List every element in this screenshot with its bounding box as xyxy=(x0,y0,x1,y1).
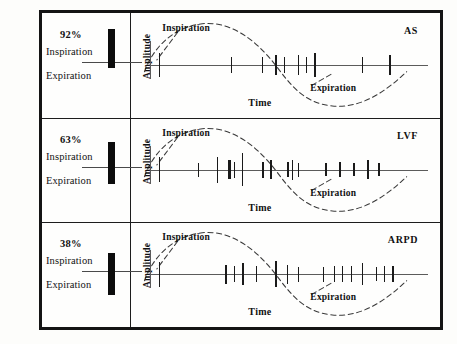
spike-mark xyxy=(298,267,299,283)
inspiration-annotation: Inspiration xyxy=(162,23,210,33)
percent-value: 38% xyxy=(60,238,82,249)
proportion-indicator: 92% Inspiration Expiration xyxy=(42,13,130,118)
spike-mark xyxy=(159,53,160,78)
spike-mark xyxy=(339,162,341,178)
panel-arpd: 38% Inspiration Expiration Amplitude Tim… xyxy=(42,222,440,327)
figure-canvas: 92% Inspiration Expiration Amplitude Tim… xyxy=(0,0,457,344)
spike-mark xyxy=(389,55,390,76)
proportion-bar xyxy=(108,29,115,68)
figure-frame: 92% Inspiration Expiration Amplitude Tim… xyxy=(39,10,443,330)
x-axis-label: Time xyxy=(248,306,271,317)
spike-mark xyxy=(228,160,231,180)
proportion-bar xyxy=(108,142,115,184)
spike-mark xyxy=(298,55,299,75)
y-axis-line xyxy=(150,146,151,184)
spike-raster-plot: Amplitude Time Inspiration Expiration AR… xyxy=(130,222,440,327)
panel-label: ARPD xyxy=(388,234,418,245)
spike-mark xyxy=(362,57,363,73)
panel-as: 92% Inspiration Expiration Amplitude Tim… xyxy=(42,13,440,118)
spike-mark xyxy=(284,57,285,73)
spike-mark xyxy=(384,266,385,282)
spike-mark xyxy=(292,160,293,180)
percent-value: 63% xyxy=(60,134,82,145)
y-axis-line xyxy=(150,41,151,79)
y-axis-line xyxy=(150,250,151,288)
spike-mark xyxy=(306,57,307,73)
spike-mark xyxy=(275,55,276,75)
expiration-label: Expiration xyxy=(46,279,91,290)
spike-raster-plot: Amplitude Time Inspiration Expiration AS xyxy=(130,13,440,118)
spike-mark xyxy=(392,266,393,282)
spike-mark xyxy=(325,163,326,177)
expiration-label: Expiration xyxy=(46,175,91,186)
spike-mark xyxy=(242,263,244,285)
proportion-indicator: 38% Inspiration Expiration xyxy=(42,222,130,327)
inspiration-label: Inspiration xyxy=(46,151,93,162)
spike-mark xyxy=(198,163,199,177)
spike-mark xyxy=(234,266,235,282)
spike-raster-plot: Amplitude Time Inspiration Expiration LV… xyxy=(130,118,440,223)
spike-mark xyxy=(287,162,290,178)
spike-mark xyxy=(225,265,227,284)
x-axis-label: Time xyxy=(248,202,271,213)
spike-mark xyxy=(234,162,235,178)
x-axis-line xyxy=(150,274,428,275)
spike-mark xyxy=(262,162,265,178)
expiration-annotation: Expiration xyxy=(310,292,356,302)
x-axis-label: Time xyxy=(248,97,271,108)
spike-mark xyxy=(314,53,315,76)
spike-mark xyxy=(217,157,218,183)
inspiration-annotation: Inspiration xyxy=(162,128,210,138)
inspiration-label: Inspiration xyxy=(46,46,93,57)
spike-mark xyxy=(351,266,352,282)
spike-mark xyxy=(256,266,257,282)
inspiration-label: Inspiration xyxy=(46,255,93,266)
spike-mark xyxy=(376,267,377,281)
spike-mark xyxy=(231,57,232,73)
expiration-annotation: Expiration xyxy=(310,83,356,93)
spike-mark xyxy=(342,266,343,282)
spike-mark xyxy=(362,263,364,285)
panel-label: AS xyxy=(404,25,418,36)
spike-mark xyxy=(323,267,324,283)
spike-mark xyxy=(270,160,272,179)
expiration-label: Expiration xyxy=(46,70,91,81)
panel-label: LVF xyxy=(397,130,418,141)
x-axis-line xyxy=(150,65,428,66)
spike-mark xyxy=(262,57,263,73)
panel-lvf: 63% Inspiration Expiration Amplitude Tim… xyxy=(42,118,440,223)
proportion-indicator: 63% Inspiration Expiration xyxy=(42,118,130,223)
spike-mark xyxy=(275,261,277,287)
spike-mark xyxy=(298,163,299,177)
expiration-annotation: Expiration xyxy=(310,188,356,198)
inspiration-annotation: Inspiration xyxy=(162,232,210,242)
spike-mark xyxy=(378,163,379,176)
spike-mark xyxy=(159,157,160,182)
spike-mark xyxy=(353,163,354,176)
proportion-bar xyxy=(108,253,115,295)
percent-value: 92% xyxy=(60,29,82,40)
spike-mark xyxy=(367,160,369,179)
spike-mark xyxy=(242,153,243,186)
spike-mark xyxy=(334,266,335,282)
spike-mark xyxy=(287,265,288,285)
spike-mark xyxy=(159,262,160,287)
